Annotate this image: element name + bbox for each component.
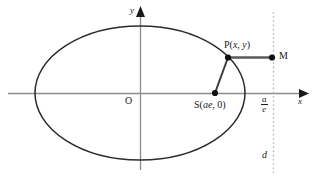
point-p-label: P(x, y) (224, 40, 250, 50)
point-m-label: M (279, 51, 288, 61)
focus-s-label-value: ae (203, 99, 212, 110)
fraction-denominator: e (261, 105, 268, 114)
point-s-focus-marker (212, 90, 218, 96)
ellipse-figure: y x O P(x, y) M S(ae, 0) a e d (0, 0, 315, 177)
y-axis-arrowhead (136, 6, 145, 17)
focus-s-label-open: S( (194, 99, 203, 110)
origin-label: O (125, 96, 132, 106)
directrix-label-d: d (262, 150, 267, 160)
y-axis-label: y (130, 6, 134, 15)
figure-canvas (0, 0, 315, 177)
focus-s-label-rest: , 0) (212, 99, 225, 110)
point-p-marker (225, 54, 231, 60)
focus-s-label: S(ae, 0) (194, 100, 226, 110)
x-axis-label: x (298, 97, 302, 106)
focal-radius-segment (215, 58, 228, 94)
point-p-label-open: P( (224, 39, 233, 50)
point-m-marker (269, 54, 275, 60)
point-p-label-close: ) (247, 39, 250, 50)
directrix-distance-fraction: a e (261, 95, 268, 115)
